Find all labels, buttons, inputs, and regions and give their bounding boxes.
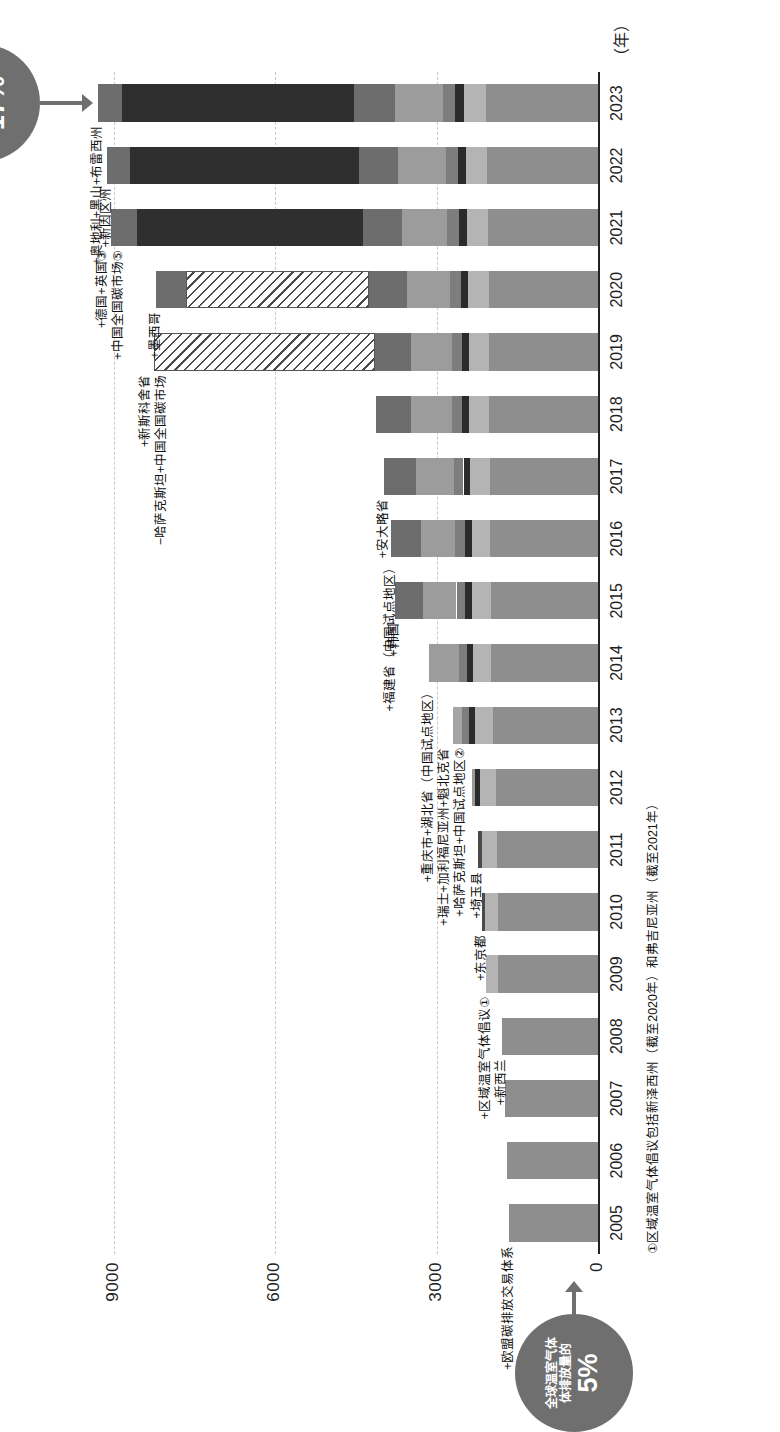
bar-segment-2017-2 xyxy=(464,458,471,495)
annotation-line: +区域温室气体倡议① xyxy=(477,997,493,1120)
bar-segment-2017-5 xyxy=(384,458,416,495)
bar-segment-2015-0 xyxy=(491,582,598,619)
annotation-line: +埼玉县 xyxy=(469,872,485,918)
bar-segment-2006-0 xyxy=(507,1142,598,1179)
annotation-2017: +安大略省 xyxy=(375,499,391,558)
x-axis-tick-2022: 2022 xyxy=(608,135,626,195)
x-axis-line xyxy=(598,72,600,1254)
x-axis-tick-2016: 2016 xyxy=(608,509,626,569)
bar-2015[interactable] xyxy=(60,582,598,619)
callout-17pct: 全球温室气体体排放量的17% xyxy=(0,44,40,162)
bar-segment-2018-0 xyxy=(489,396,598,433)
bar-segment-2019-4 xyxy=(411,333,452,370)
bar-segment-2018-3 xyxy=(452,396,462,433)
annotation-line: +德国+英国③ xyxy=(94,250,110,360)
bar-2023[interactable] xyxy=(60,84,598,121)
annotation-2005: +欧盟碳排放交易体系 xyxy=(500,1246,516,1370)
bar-segment-2016-1 xyxy=(472,520,491,557)
x-axis-unit-label: （年） xyxy=(608,16,632,64)
bar-segment-2012-1 xyxy=(480,769,496,806)
annotation-2010: +东京都 xyxy=(473,935,489,981)
bar-segment-2019-6 xyxy=(154,333,375,370)
annotation-line: +墨西哥 xyxy=(147,312,163,358)
arrow-head xyxy=(82,94,93,112)
bar-segment-2013-0 xyxy=(493,707,598,744)
arrow-head xyxy=(565,1281,583,1292)
bar-2014[interactable] xyxy=(60,644,598,681)
bar-2019[interactable] xyxy=(60,333,598,370)
bar-2009[interactable] xyxy=(60,955,598,992)
annotation-line: −哈萨克斯坦+中国全国碳市场 xyxy=(153,375,169,546)
bar-segment-2022-5 xyxy=(359,147,399,184)
bar-segment-2014-3 xyxy=(459,644,467,681)
annotation-line: +新西兰 xyxy=(493,1059,509,1105)
bar-segment-2023-2 xyxy=(455,84,464,121)
annotation-line: +中国全国碳市场⑤ xyxy=(110,250,126,360)
y-axis-tick-9000: 9000 xyxy=(103,1262,123,1314)
x-axis-tick-2008: 2008 xyxy=(608,1006,626,1066)
bar-segment-2011-2 xyxy=(478,831,482,868)
bar-segment-2016-3 xyxy=(455,520,464,557)
bar-segment-2020-3 xyxy=(450,271,461,308)
bar-segment-2016-5 xyxy=(391,520,421,557)
x-axis-tick-2007: 2007 xyxy=(608,1068,626,1128)
annotation-2008: +新西兰 xyxy=(493,1059,509,1105)
bar-2020[interactable] xyxy=(60,271,598,308)
bar-segment-2020-7 xyxy=(156,271,186,308)
bar-segment-2018-1 xyxy=(469,396,489,433)
bar-segment-2014-0 xyxy=(491,644,598,681)
bar-segment-2021-4 xyxy=(402,209,448,246)
bar-segment-2022-0 xyxy=(487,147,598,184)
bar-segment-2013-1 xyxy=(475,707,493,744)
bar-segment-2015-1 xyxy=(472,582,491,619)
x-axis-tick-2006: 2006 xyxy=(608,1131,626,1191)
annotation-2014: +重庆市+湖北省（中国试点地区） xyxy=(420,686,436,883)
callout-percent: 17% xyxy=(0,76,10,130)
callout-arrow xyxy=(40,94,92,112)
bar-2013[interactable] xyxy=(60,707,598,744)
bar-segment-2014-2 xyxy=(467,644,473,681)
bar-2008[interactable] xyxy=(60,1018,598,1055)
bar-segment-2013-2 xyxy=(469,707,475,744)
x-axis-tick-2010: 2010 xyxy=(608,882,626,942)
bar-segment-2017-1 xyxy=(470,458,489,495)
bar-segment-2020-4 xyxy=(407,271,450,308)
bar-2005[interactable] xyxy=(60,1204,598,1241)
x-axis-tick-2005: 2005 xyxy=(608,1193,626,1253)
bar-segment-2022-6 xyxy=(130,147,359,184)
bar-segment-2021-6 xyxy=(137,209,363,246)
bar-2021[interactable] xyxy=(60,209,598,246)
bar-segment-2020-6 xyxy=(186,271,369,308)
y-axis-tick-6000: 6000 xyxy=(264,1262,284,1314)
bar-segment-2018-4 xyxy=(411,396,452,433)
bar-segment-2023-7 xyxy=(98,84,122,121)
x-axis-tick-2023: 2023 xyxy=(608,73,626,133)
bar-segment-2013-4 xyxy=(453,707,462,744)
bar-2011[interactable] xyxy=(60,831,598,868)
bar-segment-2020-2 xyxy=(461,271,469,308)
bar-segment-2007-0 xyxy=(505,1080,598,1117)
bar-segment-2011-0 xyxy=(497,831,598,868)
bar-2010[interactable] xyxy=(60,893,598,930)
bar-2006[interactable] xyxy=(60,1142,598,1179)
bar-2007[interactable] xyxy=(60,1080,598,1117)
callout-percent: 5% xyxy=(574,1353,602,1392)
bar-segment-2018-2 xyxy=(462,396,469,433)
annotation-2019: +新斯科舍省−哈萨克斯坦+中国全国碳市场 xyxy=(137,375,169,546)
x-axis-tick-2009: 2009 xyxy=(608,944,626,1004)
y-axis-tick-0: 0 xyxy=(587,1262,607,1314)
bar-2022[interactable] xyxy=(60,147,598,184)
bar-segment-2017-4 xyxy=(416,458,454,495)
annotation-line: +福建省（中国试点地区） xyxy=(382,561,398,711)
bar-segment-2012-2 xyxy=(475,769,479,806)
annotation-2009: +区域温室气体倡议① xyxy=(477,997,493,1120)
bar-segment-2018-5 xyxy=(376,396,412,433)
bar-segment-2017-0 xyxy=(490,458,598,495)
annotation-2011: +埼玉县 xyxy=(469,872,485,918)
bar-2012[interactable] xyxy=(60,769,598,806)
annotation-line: +欧盟碳排放交易体系 xyxy=(500,1246,516,1370)
x-axis-tick-2017: 2017 xyxy=(608,446,626,506)
